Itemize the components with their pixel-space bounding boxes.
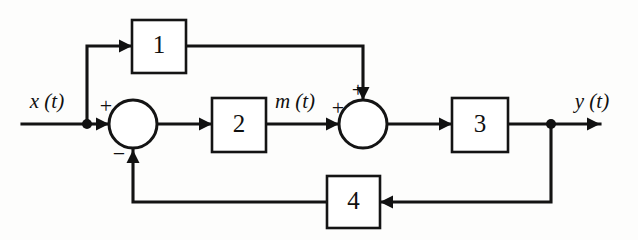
summer-1: +−: [100, 93, 157, 166]
block-diagram-figure: 1234 +−++ x (t)m (t)y (t): [0, 0, 638, 240]
block-4-label: 4: [347, 187, 360, 214]
summer-1-sign-minus-1: −: [113, 141, 125, 166]
intermediate-signal: m (t): [275, 89, 315, 113]
block-3: 3: [452, 98, 508, 152]
output-tap: [546, 119, 556, 129]
summer-2-sign-plus-0: +: [332, 95, 344, 120]
block-2-label: 2: [233, 110, 246, 137]
block-2: 2: [212, 98, 266, 152]
block-4: 4: [327, 176, 380, 228]
arrow-into-block1: [119, 40, 132, 53]
diagram-canvas: 1234 +−++ x (t)m (t)y (t): [0, 0, 638, 240]
input-signal: x (t): [29, 89, 64, 113]
block-3-label: 3: [474, 110, 487, 137]
arrow-into-block3: [439, 118, 452, 131]
arrow-into-block2: [199, 118, 212, 131]
output-signal: y (t): [573, 89, 609, 113]
arrow-into-block4: [380, 196, 393, 209]
arrow-output: [587, 118, 600, 131]
arrow-into-summer1-left: [96, 118, 109, 131]
summer-2-circle: [339, 100, 387, 148]
input-tap: [82, 119, 92, 129]
block-1: 1: [132, 20, 186, 73]
block-1-label: 1: [153, 31, 166, 58]
wire-block4-to-summer1: [133, 150, 327, 202]
summer-1-sign-plus-0: +: [100, 93, 112, 118]
arrow-into-summer1-bottom: [127, 150, 140, 163]
